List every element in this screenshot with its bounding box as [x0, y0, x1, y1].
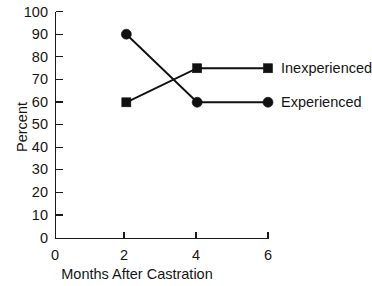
y-tick-label-0: 0: [14, 231, 48, 246]
marker-inexperienced-6: [264, 64, 273, 73]
y-axis-ticks: [56, 12, 63, 239]
marker-experienced-2: [121, 29, 131, 39]
marker-experienced-4: [192, 97, 202, 107]
y-tick-label-70: 70: [14, 72, 48, 87]
axis-lines: [56, 12, 269, 239]
marker-inexperienced-4: [193, 64, 202, 73]
y-tick-label-80: 80: [14, 50, 48, 65]
x-tick-label-6: 6: [253, 248, 283, 263]
x-tick-label-0: 0: [40, 248, 70, 263]
y-tick-label-20: 20: [14, 185, 48, 200]
y-tick-label-100: 100: [14, 5, 48, 20]
marker-experienced-6: [263, 97, 273, 107]
x-tick-label-4: 4: [181, 248, 211, 263]
legend-label-experienced: Experienced: [281, 95, 362, 110]
y-tick-label-10: 10: [14, 208, 48, 223]
y-axis-title: Percent: [15, 102, 30, 152]
y-tick-label-90: 90: [14, 27, 48, 42]
x-tick-label-2: 2: [109, 248, 139, 263]
x-axis-ticks: [124, 232, 268, 239]
x-axis-title: Months After Castration: [0, 267, 320, 282]
legend-label-inexperienced: Inexperienced: [281, 61, 372, 76]
y-tick-label-30: 30: [14, 162, 48, 177]
marker-inexperienced-2: [122, 98, 131, 107]
